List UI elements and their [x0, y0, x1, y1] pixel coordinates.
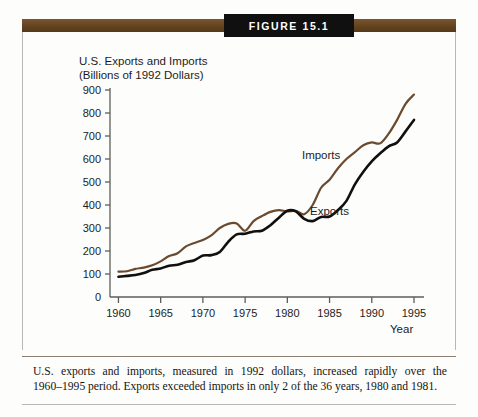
x-tick-label: 1965: [148, 307, 172, 319]
y-tick-label: 700: [83, 130, 101, 142]
y-axis-title: U.S. Exports and Imports (Billions of 19…: [79, 55, 207, 82]
figure-caption: U.S. exports and imports, measured in 19…: [33, 364, 447, 394]
chart-series-lines: [118, 95, 414, 277]
x-tick-label: 1980: [275, 307, 299, 319]
y-axis-title-line2: (Billions of 1992 Dollars): [79, 69, 207, 83]
chart-series-annotations: ImportsExports: [302, 149, 349, 217]
y-tick-label: 800: [83, 107, 101, 119]
x-tick-label: 1985: [317, 307, 341, 319]
y-tick-label: 600: [83, 153, 101, 165]
chart-axes: [110, 88, 424, 297]
caption-divider-rule: [22, 356, 456, 357]
x-tick-label: 1960: [106, 307, 130, 319]
caption-line-1: U.S. exports and imports, measured in 19…: [33, 365, 447, 378]
x-tick-label: 1975: [233, 307, 257, 319]
y-tick-label: 300: [83, 222, 101, 234]
figure-container: Figure 15.1 U.S. Exports and Imports (Bi…: [0, 0, 478, 417]
frame-bottom-border: [22, 404, 456, 405]
x-axis-ticks: 19601965197019751980198519901995: [106, 297, 426, 319]
frame-left-border: [22, 32, 23, 350]
chart-plot-area: 0100200300400500600700800900 19601965197…: [0, 0, 478, 417]
y-axis-title-line1: U.S. Exports and Imports: [79, 55, 207, 69]
figure-number-tab: Figure 15.1: [224, 14, 354, 37]
y-tick-label: 900: [83, 84, 101, 96]
y-tick-label: 400: [83, 199, 101, 211]
series-line-imports: [118, 95, 414, 272]
y-tick-label: 200: [83, 245, 101, 257]
y-tick-label: 500: [83, 176, 101, 188]
x-tick-label: 1995: [402, 307, 426, 319]
y-tick-label: 0: [95, 291, 101, 303]
figure-number-label: Figure 15.1: [249, 20, 330, 32]
series-label-exports: Exports: [310, 205, 349, 217]
x-tick-label: 1990: [360, 307, 384, 319]
series-line-exports: [118, 120, 414, 277]
series-label-imports: Imports: [302, 149, 341, 161]
y-axis-ticks: 0100200300400500600700800900: [83, 84, 110, 303]
frame-right-border: [455, 32, 456, 350]
x-tick-label: 1970: [191, 307, 215, 319]
line-chart-svg: 0100200300400500600700800900 19601965197…: [0, 0, 478, 417]
x-axis-title: Year: [390, 323, 413, 335]
caption-line-2: 1960–1995 period. Exports exceeded impor…: [33, 379, 447, 394]
y-tick-label: 100: [83, 268, 101, 280]
